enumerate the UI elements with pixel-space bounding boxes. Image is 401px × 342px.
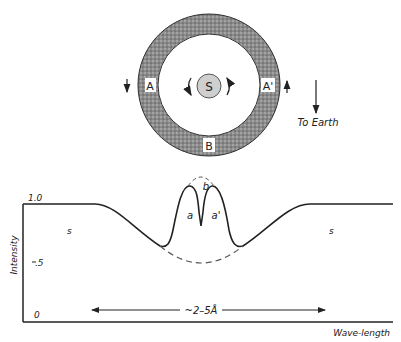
x-axis-label: Wave-length xyxy=(333,328,390,338)
ring-label-a-prime: A' xyxy=(263,80,274,93)
peak-dashed-curve xyxy=(188,177,214,186)
width-label: ~2–5Å xyxy=(185,304,218,316)
label-s-right: s xyxy=(329,226,334,236)
star-label: S xyxy=(205,80,213,94)
y-tick-0: 0 xyxy=(34,310,40,320)
y-tick-1: 1.0 xyxy=(28,193,43,203)
label-a: a xyxy=(187,210,193,221)
rotation-arrow-right-icon xyxy=(227,78,230,95)
label-a-prime: a' xyxy=(212,210,221,221)
rotation-arrow-left-icon xyxy=(189,78,192,95)
label-b: b xyxy=(203,181,209,192)
diagram-canvas: S A A' B To Earth 1.0 .5 0 Intensity Wav… xyxy=(0,0,401,342)
y-axis-label: Intensity xyxy=(9,235,19,275)
absorption-dashed-curve xyxy=(160,246,243,263)
y-tick-05: .5 xyxy=(35,258,44,268)
ring-label-b: B xyxy=(205,140,213,153)
observed-profile-curve xyxy=(23,186,393,247)
ring-label-a: A xyxy=(146,80,154,93)
earth-label: To Earth xyxy=(298,117,339,128)
label-s-left: s xyxy=(67,226,72,236)
